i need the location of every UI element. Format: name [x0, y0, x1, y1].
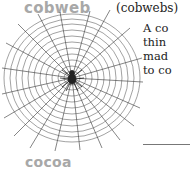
definition-line: mad — [143, 49, 168, 63]
definition-line: thin — [143, 35, 166, 49]
entry-definition: A co thin mad to co — [143, 21, 172, 77]
definition-line: to co — [143, 63, 172, 77]
definition-line: A co — [143, 21, 168, 35]
spider-web-illustration — [0, 8, 145, 153]
next-entry-headword: cocoa — [25, 154, 72, 170]
separator-line — [143, 144, 190, 145]
